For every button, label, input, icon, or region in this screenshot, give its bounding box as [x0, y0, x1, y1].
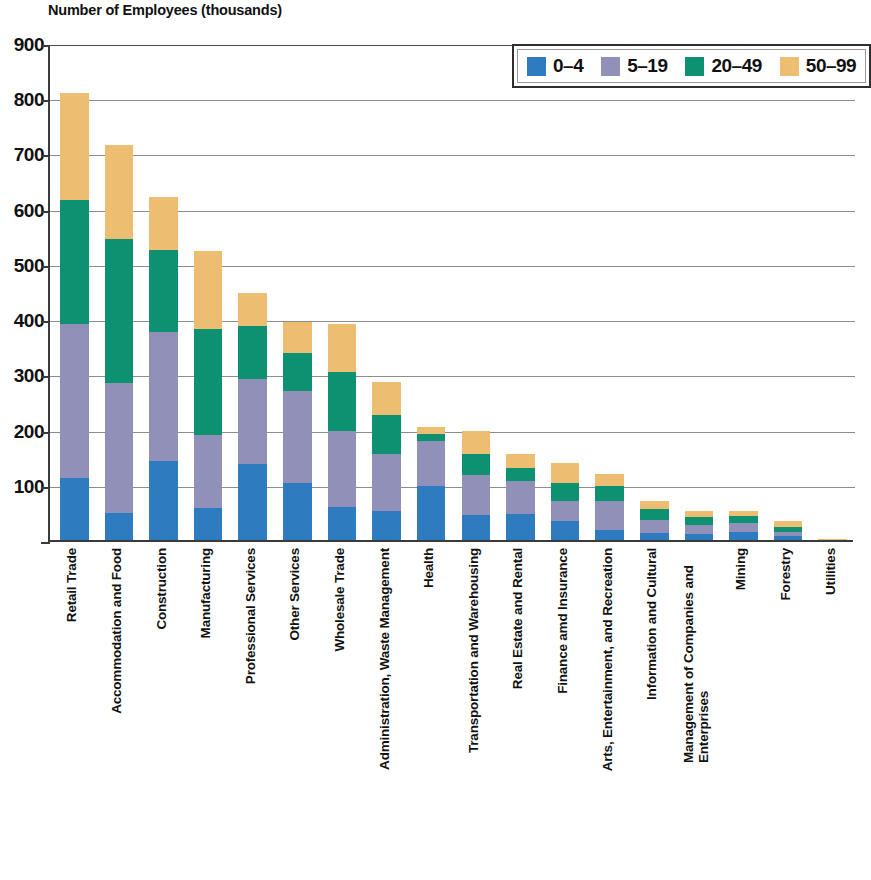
x-axis-label: Transportation and Warehousing	[466, 548, 481, 753]
bar-segment	[105, 239, 134, 383]
bar-segment	[774, 536, 803, 540]
x-axis-label: Professional Services	[243, 548, 258, 684]
bar-segment	[372, 454, 401, 511]
stacked-bar[interactable]	[551, 463, 580, 540]
bar-segment	[60, 93, 89, 201]
bar-segment	[462, 475, 491, 515]
x-axis-label: Manufacturing	[199, 548, 214, 638]
bar-segment	[729, 523, 758, 532]
y-axis-tick-label: 300	[0, 365, 44, 387]
legend-item[interactable]: 5–19	[601, 55, 667, 77]
bar-segment	[60, 324, 89, 478]
stacked-bar[interactable]	[685, 511, 714, 540]
stacked-bar[interactable]	[729, 511, 758, 540]
bar-segment	[372, 511, 401, 540]
x-axis-label: Real Estate and Rental	[511, 548, 526, 689]
bar-segment	[417, 434, 446, 441]
x-axis-label: Utilities	[823, 548, 838, 595]
bar-slot	[498, 43, 543, 540]
chart-title: Number of Employees (thousands)	[48, 2, 282, 18]
bar-segment	[149, 250, 178, 332]
bar-slot	[364, 43, 409, 540]
x-label-slot: Administration, Waste Management	[362, 548, 407, 878]
bar-slot	[141, 43, 186, 540]
stacked-bar[interactable]	[238, 293, 267, 540]
stacked-bar[interactable]	[595, 474, 624, 540]
stacked-bar[interactable]	[105, 145, 134, 540]
bar-segment	[640, 509, 669, 519]
legend-label: 5–19	[627, 55, 667, 77]
bar-slot	[677, 43, 722, 540]
legend-items: 0–45–1920–4950–99	[517, 49, 866, 83]
y-axis-tick	[41, 542, 50, 544]
bar-segment	[551, 483, 580, 501]
bar-segment	[328, 431, 357, 507]
bar-segment	[551, 501, 580, 521]
bar-slot	[320, 43, 365, 540]
stacked-bar[interactable]	[283, 322, 312, 540]
bar-segment	[372, 415, 401, 454]
bar-segment	[60, 200, 89, 323]
bar-segment	[149, 197, 178, 250]
bar-segment	[149, 332, 178, 461]
stacked-bar[interactable]	[818, 539, 847, 540]
bar-segment	[685, 534, 714, 540]
legend-item[interactable]: 50–99	[780, 55, 856, 77]
y-axis-tick-label: 400	[0, 310, 44, 332]
plot-area	[48, 45, 853, 542]
bar-segment	[640, 501, 669, 509]
bar-segment	[506, 514, 535, 540]
stacked-bar[interactable]	[194, 251, 223, 540]
x-label-slot: Mining	[719, 548, 764, 878]
chart-root: Number of Employees (thousands) 10020030…	[0, 0, 871, 880]
y-axis-tick-label: 600	[0, 200, 44, 222]
bar-segment	[640, 533, 669, 540]
bar-slot	[766, 43, 811, 540]
bar-segment	[685, 525, 714, 535]
x-label-slot: Health	[407, 548, 452, 878]
y-axis-tick-label: 500	[0, 255, 44, 277]
bar-segment	[462, 431, 491, 454]
bar-slot	[97, 43, 142, 540]
bar-segment	[283, 353, 312, 392]
stacked-bar[interactable]	[149, 197, 178, 540]
stacked-bar[interactable]	[506, 454, 535, 540]
y-axis-tick	[41, 100, 50, 102]
x-label-slot: Other Services	[273, 548, 318, 878]
x-label-slot: Wholesale Trade	[318, 548, 363, 878]
x-label-slot: Retail Trade	[50, 548, 95, 878]
stacked-bar[interactable]	[328, 324, 357, 540]
bar-segment	[194, 251, 223, 329]
y-axis-tick	[41, 266, 50, 268]
x-axis-label: Arts, Entertainment, and Recreation	[600, 548, 615, 771]
stacked-bar[interactable]	[417, 427, 446, 540]
x-label-slot: Accommodation and Food	[95, 548, 140, 878]
y-axis-tick	[41, 376, 50, 378]
x-axis-label: Other Services	[288, 548, 303, 641]
x-axis-label: Management of Companies and Enterprises	[682, 548, 711, 763]
legend-swatch	[685, 57, 704, 76]
stacked-bar[interactable]	[462, 431, 491, 540]
y-axis-tick-label: 100	[0, 476, 44, 498]
y-axis-tick	[41, 432, 50, 434]
x-axis-label: Information and Cultural	[645, 548, 660, 700]
legend-item[interactable]: 0–4	[527, 55, 583, 77]
bar-segment	[372, 382, 401, 415]
bar-segment	[194, 329, 223, 434]
bar-slot	[453, 43, 498, 540]
bar-segment	[640, 520, 669, 533]
bar-segment	[283, 483, 312, 540]
bar-segment	[194, 508, 223, 540]
bar-segment	[417, 486, 446, 540]
bar-slot	[230, 43, 275, 540]
bar-segment	[238, 379, 267, 463]
bar-segment	[595, 474, 624, 487]
x-label-slot: Utilities	[808, 548, 853, 878]
stacked-bar[interactable]	[60, 93, 89, 540]
stacked-bar[interactable]	[640, 501, 669, 540]
legend-item[interactable]: 20–49	[685, 55, 761, 77]
bar-slot	[52, 43, 97, 540]
stacked-bar[interactable]	[774, 521, 803, 540]
y-axis-tick-label: 800	[0, 89, 44, 111]
stacked-bar[interactable]	[372, 382, 401, 540]
